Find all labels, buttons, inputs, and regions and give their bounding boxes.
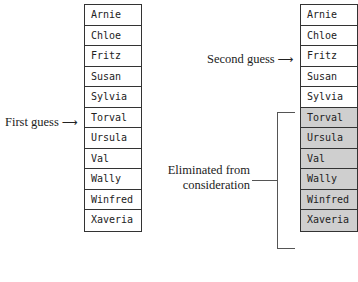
list-item: Susan	[301, 67, 357, 88]
eliminated-bracket	[277, 112, 295, 249]
list-item: Chloe	[301, 26, 357, 47]
eliminated-label-line1: Eliminated from	[162, 163, 250, 178]
list-item: Arnie	[301, 5, 357, 26]
list-item-eliminated: Xaveria	[301, 210, 357, 231]
list-item: Arnie	[85, 5, 141, 26]
first-guess-label: First guess ⟶	[5, 115, 78, 130]
list-item: Xaveria	[85, 210, 141, 231]
first-guess-text: First guess	[5, 115, 59, 129]
second-guess-text: Second guess	[207, 52, 275, 66]
eliminated-label: Eliminated from consideration	[162, 163, 250, 193]
list-item: Chloe	[85, 26, 141, 47]
left-name-list: Arnie Chloe Fritz Susan Sylvia Torval Ur…	[84, 4, 142, 232]
list-item-eliminated: Torval	[301, 108, 357, 129]
list-item: Fritz	[85, 46, 141, 67]
list-item: Susan	[85, 67, 141, 88]
list-item: Ursula	[85, 128, 141, 149]
right-arrow-icon: ⟶	[278, 53, 294, 66]
list-item-first-guess: Torval	[85, 108, 141, 129]
list-item: Wally	[85, 169, 141, 190]
eliminated-label-line2: consideration	[162, 178, 250, 193]
list-item-second-guess: Fritz	[301, 46, 357, 67]
list-item-eliminated: Ursula	[301, 128, 357, 149]
right-arrow-icon: ⟶	[62, 116, 78, 129]
list-item-eliminated: Val	[301, 149, 357, 170]
list-item: Winfred	[85, 190, 141, 211]
bracket-pointer-line	[252, 180, 277, 181]
list-item-eliminated: Winfred	[301, 190, 357, 211]
right-name-list: Arnie Chloe Fritz Susan Sylvia Torval Ur…	[300, 4, 358, 232]
list-item: Sylvia	[301, 87, 357, 108]
second-guess-label: Second guess ⟶	[207, 52, 294, 67]
list-item: Sylvia	[85, 87, 141, 108]
list-item: Val	[85, 149, 141, 170]
list-item-eliminated: Wally	[301, 169, 357, 190]
